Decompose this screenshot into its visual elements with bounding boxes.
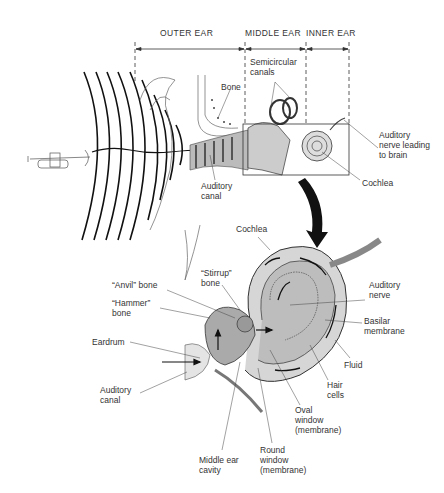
section-outer-ear: OUTER EAR: [160, 28, 213, 38]
label-round-window: Round window (membrane): [260, 445, 306, 475]
label-auditory-nerve-brain: Auditory nerve leading to brain: [379, 130, 430, 160]
label-oval-window: Oval window (membrane): [295, 405, 341, 435]
cochlea-detail: [162, 240, 380, 412]
label-auditory-nerve: Auditory nerve: [369, 280, 400, 300]
bone-dots: [211, 99, 231, 125]
label-middle-ear-cavity: Middle ear cavity: [199, 455, 239, 475]
inner-ear-overview: [248, 98, 345, 175]
section-middle-ear: MIDDLE EAR: [245, 28, 301, 38]
sound-waves: [82, 72, 182, 240]
label-hair-cells: Hair cells: [327, 380, 344, 400]
label-cochlea-overview: Cochlea: [362, 178, 393, 188]
label-stirrup-bone: “Stirrup” bone: [201, 268, 232, 288]
label-eardrum: Eardrum: [92, 337, 125, 347]
label-fluid: Fluid: [344, 360, 362, 370]
label-auditory-canal-overview: Auditory canal: [201, 181, 232, 201]
zoom-arrow: [298, 178, 328, 248]
label-bone: Bone: [221, 82, 241, 92]
label-semicircular-canals: Semicircular canals: [250, 57, 297, 77]
label-basilar-membrane: Basilar membrane: [364, 316, 405, 336]
label-cochlea-detail: Cochlea: [236, 224, 267, 234]
label-hammer-bone: “Hammer” bone: [112, 298, 150, 318]
auditory-nerve-shape: [330, 240, 380, 265]
section-range-arrows: [136, 48, 348, 51]
trumpet-icon: [28, 150, 90, 168]
label-anvil-bone: “Anvil” bone: [112, 280, 157, 290]
label-auditory-canal-detail: Auditory canal: [100, 385, 131, 405]
section-inner-ear: INNER EAR: [306, 28, 356, 38]
ear-diagram: [0, 0, 444, 493]
